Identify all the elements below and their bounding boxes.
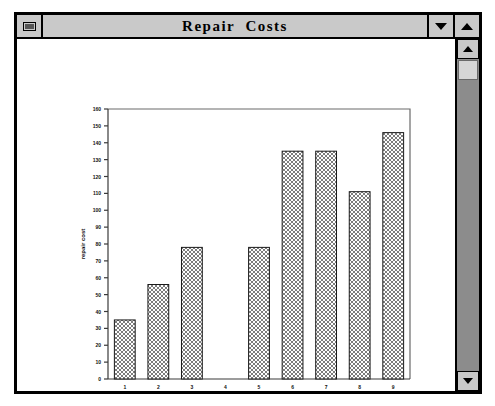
x-tick-label: 1 <box>123 384 126 390</box>
x-tick-label: 7 <box>325 384 328 390</box>
scroll-up-button[interactable] <box>457 39 479 59</box>
chevron-down-icon <box>435 23 447 30</box>
bar-series <box>114 133 403 379</box>
x-tick-label: 3 <box>190 384 193 390</box>
window-maximize-button[interactable] <box>453 15 479 37</box>
vertical-scrollbar[interactable] <box>455 39 479 391</box>
y-tick-label: 130 <box>93 157 102 163</box>
bar <box>249 247 270 379</box>
bar <box>316 151 337 379</box>
window-titlebar: Repair Costs <box>17 15 479 39</box>
y-axis-label: repair cost <box>80 229 86 260</box>
y-axis-ticks: 0102030405060708090100110120130140150160 <box>93 106 108 382</box>
y-tick-label: 50 <box>95 292 101 298</box>
chart-window: Repair Costs <box>14 12 482 394</box>
y-tick-label: 40 <box>95 309 101 315</box>
y-tick-label: 110 <box>93 190 101 196</box>
x-tick-label: 6 <box>291 384 294 390</box>
y-tick-label: 0 <box>98 376 101 382</box>
chart-client-area: 0102030405060708090100110120130140150160… <box>17 39 455 391</box>
x-tick-label: 2 <box>157 384 160 390</box>
bar <box>282 151 303 379</box>
y-tick-label: 30 <box>95 325 101 331</box>
window-title: Repair Costs <box>43 15 427 37</box>
scroll-up-arrow-icon <box>463 46 473 52</box>
x-tick-label: 9 <box>392 384 395 390</box>
bar <box>181 247 202 379</box>
y-tick-label: 90 <box>95 224 101 230</box>
bar-chart: 0102030405060708090100110120130140150160… <box>17 39 455 391</box>
y-tick-label: 10 <box>95 359 101 365</box>
chevron-up-icon <box>461 23 473 30</box>
bar <box>349 192 370 379</box>
y-tick-label: 120 <box>93 174 102 180</box>
bar <box>383 133 404 379</box>
system-menu-button[interactable] <box>17 15 43 37</box>
y-tick-label: 80 <box>95 241 101 247</box>
y-tick-label: 60 <box>95 275 101 281</box>
system-box-icon <box>23 22 36 31</box>
y-tick-label: 160 <box>93 106 102 112</box>
window-dropdown-button[interactable] <box>427 15 453 37</box>
bar <box>148 285 169 380</box>
x-tick-label: 4 <box>224 384 227 390</box>
x-axis-label: car brand <box>245 390 273 391</box>
y-tick-label: 70 <box>95 258 101 264</box>
y-tick-label: 140 <box>93 140 102 146</box>
bar <box>114 320 135 379</box>
y-tick-label: 100 <box>93 207 102 213</box>
y-tick-label: 20 <box>95 342 101 348</box>
scroll-down-arrow-icon <box>463 378 473 384</box>
x-tick-label: 8 <box>358 384 361 390</box>
y-tick-label: 150 <box>93 123 102 129</box>
scroll-down-button[interactable] <box>457 371 479 391</box>
scrollbar-thumb[interactable] <box>458 60 478 80</box>
